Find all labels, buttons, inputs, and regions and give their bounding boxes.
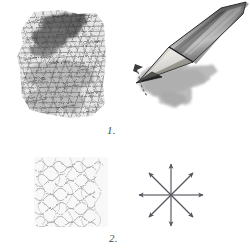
step-label-2: 2. bbox=[109, 232, 118, 244]
step-label-1: 1. bbox=[107, 124, 116, 136]
pencil-technique-figure bbox=[0, 0, 250, 252]
dense-hatch-patch bbox=[14, 8, 110, 122]
light-scribble-patch bbox=[34, 157, 108, 227]
